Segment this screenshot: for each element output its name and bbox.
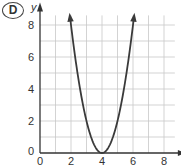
x-tick-label: 2 — [68, 155, 74, 165]
y-tick-label: 4 — [28, 83, 34, 95]
x-axis-arrow-icon — [178, 150, 181, 156]
curve-arrow-icon — [130, 13, 136, 22]
y-tick-label: 8 — [28, 19, 34, 31]
x-tick-label: 6 — [130, 155, 136, 165]
y-axis-label: y — [30, 1, 38, 13]
y-tick-label: 2 — [28, 115, 34, 127]
parabola-chart: 0246802468xy — [0, 0, 181, 165]
curve-arrow-icon — [67, 13, 73, 22]
x-tick-label: 4 — [99, 155, 105, 165]
y-tick-label: 6 — [28, 51, 34, 63]
y-axis-arrow-icon — [37, 2, 43, 11]
x-tick-label: 0 — [37, 155, 43, 165]
grid-lines — [40, 15, 175, 153]
axes — [37, 2, 181, 156]
x-tick-label: 8 — [161, 155, 167, 165]
y-tick-label: 0 — [28, 145, 34, 157]
tick-labels: 0246802468xy — [28, 1, 181, 165]
